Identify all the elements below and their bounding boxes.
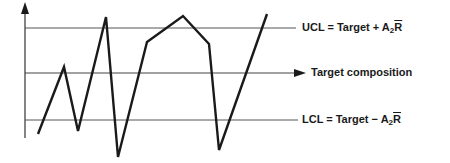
lcl-rbar: R <box>393 113 401 125</box>
ucl-rbar: R <box>394 21 402 33</box>
target-arrow-icon <box>294 69 306 77</box>
target-label: Target composition <box>311 67 412 78</box>
ucl-label-text: UCL = Target + A <box>302 21 390 33</box>
process-series <box>38 14 267 157</box>
lcl-label: LCL = Target − A2R <box>302 114 401 127</box>
lcl-label-text: LCL = Target − A <box>302 113 389 125</box>
ucl-label: UCL = Target + A2R <box>302 22 402 35</box>
y-axis-arrow-icon <box>21 2 29 14</box>
